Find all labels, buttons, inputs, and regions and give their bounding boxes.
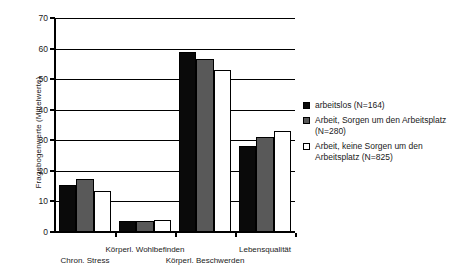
plot-area: 010203040506070 (55, 18, 295, 232)
legend-item: arbeitslos (N=164) (303, 100, 451, 111)
legend-item-label: arbeitslos (N=164) (315, 100, 385, 111)
y-axis-tick-label: 60 (39, 44, 48, 54)
y-axis-tick-label: 20 (39, 166, 48, 176)
bars-layer (55, 18, 295, 232)
bar (59, 185, 77, 232)
black-square-swatch (303, 102, 310, 109)
bar (136, 221, 154, 232)
white-square-swatch (303, 143, 310, 150)
bar (119, 221, 137, 232)
bar (214, 70, 232, 232)
x-axis-tick (235, 233, 237, 237)
legend-item-label: Arbeit, keine Sorgen um den Arbeitsplatz… (315, 141, 451, 163)
bar (256, 137, 274, 232)
y-axis-tick-label: 50 (39, 74, 48, 84)
y-axis-tick-label: 0 (43, 227, 48, 237)
chart-legend: arbeitslos (N=164)Arbeit, Sorgen um den … (303, 100, 451, 167)
bar-chart: Fragebogenwerte (Mittelwerte) 0102030405… (0, 0, 455, 270)
y-axis-tick-label: 70 (39, 13, 48, 23)
x-axis-label: Lebensqualität (239, 245, 291, 254)
y-axis-tick-label: 40 (39, 105, 48, 115)
y-axis-tick-label: 10 (39, 196, 48, 206)
bar (179, 52, 197, 232)
y-axis-tick-label: 30 (39, 135, 48, 145)
x-axis-label: Körperl. Wohlbefinden (105, 245, 184, 254)
x-axis-label: Körperl. Beschwerden (166, 256, 245, 265)
x-axis-label: Chron. Stress (61, 256, 110, 265)
legend-item: Arbeit, keine Sorgen um den Arbeitsplatz… (303, 141, 451, 163)
bar (76, 179, 94, 233)
bar (94, 191, 112, 232)
bar (196, 59, 214, 232)
bar (154, 220, 172, 232)
legend-item-label: Arbeit, Sorgen um den Arbeitsplatz (N=28… (315, 115, 451, 137)
bar (274, 131, 292, 232)
x-axis-tick (175, 233, 177, 237)
x-axis-tick (115, 233, 117, 237)
bar (239, 146, 257, 232)
x-axis-tick (295, 233, 297, 237)
gray-square-swatch (303, 117, 310, 124)
legend-item: Arbeit, Sorgen um den Arbeitsplatz (N=28… (303, 115, 451, 137)
